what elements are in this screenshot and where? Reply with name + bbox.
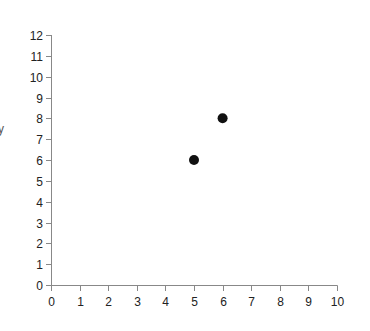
x-tick-label: 0	[48, 295, 55, 309]
y-axis-label: y	[0, 122, 4, 136]
y-tick-label: 10	[30, 71, 44, 85]
y-tick-label: 2	[36, 237, 43, 251]
x-tick-label: 3	[134, 295, 141, 309]
x-tick-label: 10	[331, 295, 345, 309]
x-tick-label: 1	[77, 295, 84, 309]
y-axis-title: y	[0, 122, 4, 136]
x-tick-label: 8	[277, 295, 284, 309]
y-tick-label: 1	[36, 258, 43, 272]
y-tick-label: 7	[36, 133, 43, 147]
y-tick-label: 9	[36, 92, 43, 106]
y-axis: 0123456789101112	[30, 29, 52, 293]
data-points	[189, 113, 228, 165]
x-axis: 012345678910	[48, 286, 344, 310]
scatter-chart: y 0123456789101112 012345678910	[0, 0, 370, 331]
y-tick-label: 5	[36, 175, 43, 189]
data-point	[189, 155, 199, 165]
x-tick-label: 2	[105, 295, 112, 309]
y-tick-label: 11	[31, 50, 44, 64]
x-tick-label: 9	[305, 295, 312, 309]
x-tick-label: 6	[220, 295, 227, 309]
y-tick-label: 4	[36, 196, 43, 210]
y-tick-label: 6	[36, 154, 43, 168]
y-tick-label: 3	[36, 217, 43, 231]
data-point	[218, 113, 228, 123]
x-tick-label: 5	[191, 295, 198, 309]
x-tick-label: 4	[162, 295, 169, 309]
y-tick-label: 8	[36, 112, 43, 126]
x-tick-label: 7	[248, 295, 255, 309]
y-tick-label: 12	[30, 29, 44, 43]
y-tick-label: 0	[36, 279, 43, 293]
